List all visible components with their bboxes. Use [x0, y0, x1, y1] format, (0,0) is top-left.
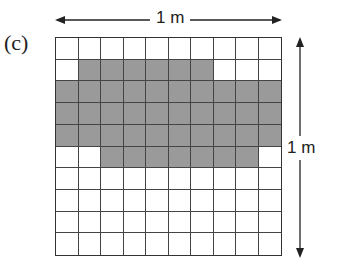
grid-cell-shaded [79, 103, 102, 125]
grid-cell [259, 168, 282, 190]
grid-cell [259, 190, 282, 212]
grid-cell-shaded [146, 81, 169, 103]
grid-cell-shaded [236, 103, 259, 125]
grid-cell [214, 190, 237, 212]
grid-cell [79, 190, 102, 212]
grid-cell-shaded [214, 81, 237, 103]
grid-cell-shaded [169, 147, 192, 169]
grid-cell [191, 38, 214, 60]
grid-cell-shaded [146, 125, 169, 147]
square-grid [55, 37, 282, 256]
grid-cell-shaded [259, 103, 282, 125]
grid-cell [124, 233, 147, 255]
grid-cell [236, 168, 259, 190]
grid-cell [214, 168, 237, 190]
grid-cell [101, 190, 124, 212]
grid-cell [259, 147, 282, 169]
grid-cell-shaded [236, 125, 259, 147]
grid-cell-shaded [259, 125, 282, 147]
grid-cell-shaded [79, 60, 102, 82]
grid-cell [236, 233, 259, 255]
grid-cell-shaded [169, 103, 192, 125]
grid-cell-shaded [56, 125, 79, 147]
grid-cell [169, 190, 192, 212]
grid-cell-shaded [124, 103, 147, 125]
grid-cell-shaded [191, 103, 214, 125]
grid-cell-shaded [236, 81, 259, 103]
grid-cell-shaded [56, 81, 79, 103]
grid-cell [169, 212, 192, 234]
grid-cell-shaded [169, 125, 192, 147]
grid-cell [259, 60, 282, 82]
grid-cell-shaded [101, 81, 124, 103]
grid-cell-shaded [56, 103, 79, 125]
grid-cell [146, 233, 169, 255]
grid-cell-shaded [191, 125, 214, 147]
grid-cell [56, 38, 79, 60]
grid-cell-shaded [124, 60, 147, 82]
grid-cell [169, 233, 192, 255]
grid-cell [124, 190, 147, 212]
grid-cell [56, 233, 79, 255]
grid-cell-shaded [124, 147, 147, 169]
grid-cell-shaded [101, 103, 124, 125]
grid-cell-shaded [124, 125, 147, 147]
grid-cell [146, 212, 169, 234]
grid-cell [146, 38, 169, 60]
grid-cell [214, 212, 237, 234]
grid-cell-shaded [79, 81, 102, 103]
grid-cell [191, 168, 214, 190]
grid-cell [56, 168, 79, 190]
grid-cell [259, 233, 282, 255]
grid-cell-shaded [191, 60, 214, 82]
grid-cell [56, 60, 79, 82]
grid-cell [124, 212, 147, 234]
grid-cell-shaded [169, 81, 192, 103]
grid-cell [191, 233, 214, 255]
grid-cell [259, 212, 282, 234]
grid-cell [101, 38, 124, 60]
width-label: 1 m [150, 8, 190, 28]
part-label: (c) [4, 30, 28, 56]
grid-cell [56, 190, 79, 212]
grid-cell [146, 168, 169, 190]
grid-cell [79, 147, 102, 169]
grid-cell [169, 38, 192, 60]
grid-cell [236, 38, 259, 60]
grid-cell [101, 212, 124, 234]
grid-cell-shaded [236, 147, 259, 169]
grid-cell [191, 190, 214, 212]
grid-cell-shaded [214, 147, 237, 169]
grid-cell-shaded [101, 125, 124, 147]
grid-cell [124, 168, 147, 190]
grid-cell [79, 233, 102, 255]
grid-cell-shaded [191, 147, 214, 169]
grid-cell-shaded [146, 103, 169, 125]
grid-cell [79, 212, 102, 234]
grid-cell [236, 212, 259, 234]
grid-cell [124, 38, 147, 60]
grid-cell [101, 233, 124, 255]
grid-cell-shaded [259, 81, 282, 103]
grid-cell-shaded [146, 147, 169, 169]
grid-cell [259, 38, 282, 60]
grid-cell-shaded [101, 60, 124, 82]
grid-cell-shaded [191, 81, 214, 103]
grid-cell-shaded [146, 60, 169, 82]
grid-cell-shaded [214, 103, 237, 125]
grid-cell [236, 190, 259, 212]
grid-cell [101, 168, 124, 190]
grid-cell [191, 212, 214, 234]
grid-cell-shaded [124, 81, 147, 103]
height-label: 1 m [287, 136, 315, 160]
grid-cell [146, 190, 169, 212]
grid-cell [236, 60, 259, 82]
grid-cell-shaded [214, 125, 237, 147]
grid-cell [79, 38, 102, 60]
grid-cell-shaded [101, 147, 124, 169]
grid-cell [214, 60, 237, 82]
grid-cell-shaded [79, 125, 102, 147]
grid-cell-shaded [169, 60, 192, 82]
grid-cell [214, 233, 237, 255]
grid-cell [56, 212, 79, 234]
